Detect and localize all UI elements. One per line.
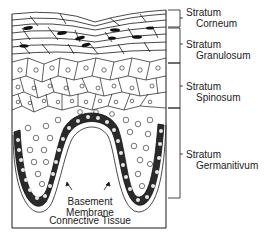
granulosum-nuclei	[20, 25, 155, 47]
label-stratum-granulosum: Stratum Granulosum	[186, 39, 250, 61]
epidermis-illustration	[0, 0, 268, 240]
bracket-corneum	[168, 10, 183, 27]
label-line2: Spinosum	[186, 92, 240, 103]
label-line1: Stratum	[186, 81, 221, 92]
label-stratum-germanitivum: Stratum Germanitivum	[186, 149, 258, 171]
bracket-granulosum	[168, 28, 183, 63]
stratum-corneum-cells	[12, 10, 166, 54]
label-line1: Stratum	[186, 7, 221, 18]
label-line2: Granulosum	[186, 50, 250, 61]
label-line1: Basement	[62, 196, 118, 207]
label-stratum-spinosum: Stratum Spinosum	[186, 81, 240, 103]
stratum-spinosum-cells	[12, 58, 166, 112]
label-line2: Germanitivum	[186, 160, 258, 171]
basal-cells	[16, 115, 163, 202]
basement-membrane-pointers	[66, 182, 110, 190]
label-line1: Stratum	[186, 149, 221, 160]
bracket-spinosum	[168, 63, 183, 108]
label-stratum-corneum: Stratum Corneum	[186, 7, 237, 29]
bracket-germanitivum	[168, 108, 183, 198]
label-connective-tissue: Connective Tissue	[40, 215, 140, 226]
label-line2: Corneum	[186, 18, 237, 29]
spinosum-nuclei	[16, 66, 160, 105]
layer-brackets	[168, 10, 183, 198]
label-line1: Stratum	[186, 39, 221, 50]
